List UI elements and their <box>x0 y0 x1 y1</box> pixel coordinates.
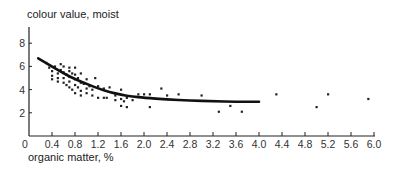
fitted-curve <box>38 58 259 102</box>
data-point <box>275 93 277 95</box>
data-point <box>68 80 70 82</box>
data-point <box>132 99 134 101</box>
x-tick-label: 4.0 <box>252 138 267 150</box>
x-tick-label: 2.4 <box>160 138 175 150</box>
data-point <box>143 93 145 95</box>
data-point <box>51 75 53 77</box>
x-tick-label: 4.8 <box>298 138 313 150</box>
data-point <box>80 90 82 92</box>
data-point <box>63 65 65 67</box>
data-point <box>74 74 76 76</box>
data-point <box>86 92 88 94</box>
data-point <box>48 67 50 69</box>
data-point <box>57 72 59 74</box>
data-point <box>120 89 122 91</box>
y-tick-label: 4 <box>19 84 25 96</box>
data-point <box>71 89 73 91</box>
data-point <box>149 106 151 108</box>
data-point <box>149 93 151 95</box>
y-tick-label: 8 <box>19 37 25 49</box>
x-tick-label: 5.6 <box>344 138 359 150</box>
data-point <box>74 84 76 86</box>
data-point <box>71 72 73 74</box>
data-point <box>218 111 220 113</box>
y-tick-label: 2 <box>19 107 25 119</box>
data-point <box>114 99 116 101</box>
x-tick-label: 3.6 <box>229 138 244 150</box>
data-point <box>126 106 128 108</box>
data-point <box>80 94 82 96</box>
data-point <box>77 86 79 88</box>
data-point <box>51 78 53 80</box>
x-tick-label: 0.8 <box>68 138 83 150</box>
data-point <box>68 70 70 72</box>
data-point <box>166 94 168 96</box>
y-axis-title: colour value, moist <box>27 8 119 20</box>
x-tick-label: 2.8 <box>183 138 198 150</box>
data-point <box>97 97 99 99</box>
data-point <box>63 82 65 84</box>
x-tick-label: 1.6 <box>114 138 129 150</box>
x-axis-title: organic matter, % <box>28 151 114 163</box>
data-point <box>94 77 96 79</box>
data-point <box>103 97 105 99</box>
data-point <box>137 93 139 95</box>
data-point <box>178 93 180 95</box>
data-point <box>80 72 82 74</box>
data-point <box>86 78 88 80</box>
x-tick-label: 5.2 <box>321 138 336 150</box>
data-point <box>51 70 53 72</box>
data-point <box>106 97 108 99</box>
data-point <box>123 100 125 102</box>
data-point <box>63 77 65 79</box>
data-point <box>109 86 111 88</box>
scatter-chart: 00.40.81.21.62.02.42.83.23.64.04.44.85.2… <box>0 0 402 169</box>
data-point <box>367 98 369 100</box>
x-tick-label: 0 <box>22 138 28 150</box>
data-point <box>160 87 162 89</box>
data-point <box>86 87 88 89</box>
x-tick-label: 0.4 <box>45 138 60 150</box>
data-point <box>74 92 76 94</box>
data-point <box>120 98 122 100</box>
data-point <box>91 89 93 91</box>
x-tick-label: 3.2 <box>206 138 221 150</box>
data-point <box>241 111 243 113</box>
data-point <box>316 106 318 108</box>
data-point <box>68 67 70 69</box>
data-point <box>327 93 329 95</box>
y-tick-label: 6 <box>19 60 25 72</box>
x-tick-label: 4.4 <box>275 138 290 150</box>
data-point <box>60 63 62 65</box>
data-point <box>91 94 93 96</box>
x-tick-label: 6.0 <box>367 138 382 150</box>
data-point <box>229 105 231 107</box>
data-point <box>57 80 59 82</box>
x-tick-label: 1.2 <box>91 138 106 150</box>
data-point <box>57 77 59 79</box>
x-tick-label: 2.0 <box>137 138 152 150</box>
data-point <box>74 67 76 69</box>
data-point <box>68 86 70 88</box>
data-point <box>120 105 122 107</box>
data-point <box>65 84 67 86</box>
data-point <box>201 94 203 96</box>
